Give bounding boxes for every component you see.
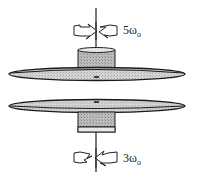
top-omega-subscript: o bbox=[137, 30, 141, 39]
bottom-disk bbox=[9, 100, 185, 113]
bottom-omega-text: 3ω bbox=[123, 151, 137, 165]
top-rotation-arrow-icon bbox=[74, 22, 117, 40]
top-hub bbox=[78, 48, 115, 70]
top-disk bbox=[9, 68, 185, 81]
bottom-angular-velocity-label: 3ωo bbox=[123, 151, 141, 167]
bottom-hub bbox=[78, 112, 115, 132]
diagram-canvas bbox=[0, 0, 198, 176]
bottom-rotation-arrow-icon bbox=[74, 148, 117, 168]
top-angular-velocity-label: 5ωo bbox=[123, 23, 141, 39]
bottom-omega-subscript: o bbox=[137, 158, 141, 167]
top-omega-text: 5ω bbox=[123, 23, 137, 37]
